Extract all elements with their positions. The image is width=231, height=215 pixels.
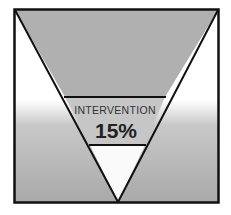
segment-value: 15% <box>95 119 137 142</box>
pyramid-diagram: INTERVENTION 15% <box>0 0 231 215</box>
segment-label: INTERVENTION <box>74 104 156 116</box>
